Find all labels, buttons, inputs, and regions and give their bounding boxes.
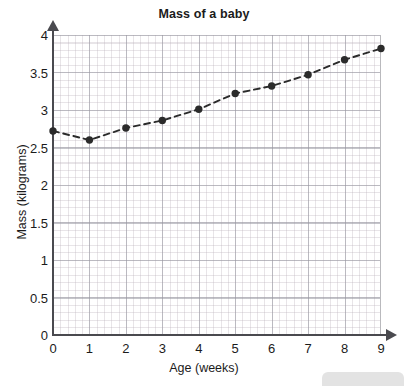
y-tick-label: 3.5 <box>4 65 48 80</box>
x-tick-label: 0 <box>38 341 68 356</box>
x-tick-label: 2 <box>111 341 141 356</box>
y-axis-arrow-icon <box>47 20 59 31</box>
x-tick-label: 9 <box>366 341 396 356</box>
y-axis-title: Mass (kilograms) <box>15 112 29 272</box>
chart-title: Mass of a baby <box>0 7 408 21</box>
x-axis-line <box>52 334 388 336</box>
y-axis-line <box>52 30 54 336</box>
bottom-right-artifact <box>322 372 404 386</box>
x-tick-label: 5 <box>220 341 250 356</box>
chart-container: Mass of a baby 0 0.5 1 1.5 2 2.5 3 3.5 4… <box>0 0 408 386</box>
x-tick-label: 6 <box>257 341 287 356</box>
y-tick-label: 4 <box>4 28 48 43</box>
y-tick-label: 0.5 <box>4 290 48 305</box>
x-tick-label: 7 <box>293 341 323 356</box>
x-axis-arrow-icon <box>386 329 397 341</box>
plot-area-grid <box>53 35 381 335</box>
x-tick-label: 4 <box>184 341 214 356</box>
x-tick-label: 1 <box>74 341 104 356</box>
x-tick-label: 3 <box>147 341 177 356</box>
x-tick-label: 8 <box>330 341 360 356</box>
